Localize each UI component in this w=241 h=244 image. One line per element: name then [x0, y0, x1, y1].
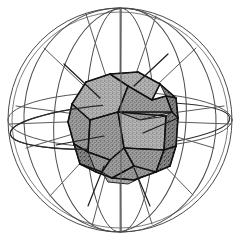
figure-container: Line drawing of a wireframe sphere with … [0, 0, 241, 244]
sphere-polyhedron-diagram [0, 0, 241, 244]
